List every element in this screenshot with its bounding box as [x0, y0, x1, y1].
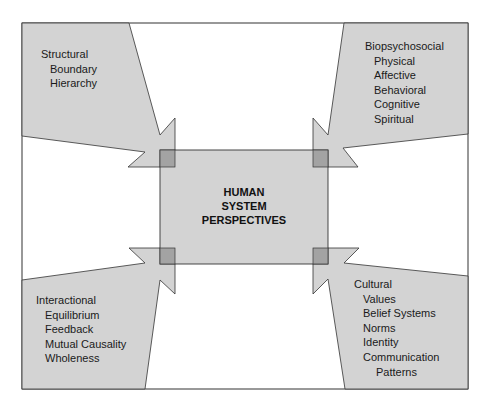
- cultural-heading: Cultural: [354, 277, 439, 292]
- structural-heading: Structural: [41, 47, 97, 62]
- biopsychosocial-item: Cognitive: [365, 97, 444, 112]
- cultural-item: Norms: [354, 321, 439, 336]
- overlap-square-bottom-left: [160, 248, 175, 264]
- interactional-item: Feedback: [36, 322, 126, 337]
- cultural-item: Identity: [354, 335, 439, 350]
- cultural-label-group: Cultural Values Belief Systems Norms Ide…: [354, 277, 439, 379]
- biopsychosocial-item: Spiritual: [365, 112, 444, 127]
- interactional-heading: Interactional: [36, 293, 126, 308]
- overlap-square-top-left: [160, 150, 175, 167]
- structural-label-group: Structural Boundary Hierarchy: [41, 47, 97, 91]
- interactional-item: Wholeness: [36, 351, 126, 366]
- structural-item: Boundary: [41, 62, 97, 77]
- biopsychosocial-item: Behavioral: [365, 83, 444, 98]
- cultural-item: Communication: [354, 350, 439, 365]
- cultural-item-continuation: Patterns: [354, 365, 439, 380]
- center-title-line: HUMAN: [160, 185, 328, 199]
- biopsychosocial-item: Affective: [365, 68, 444, 83]
- center-title-line: SYSTEM: [160, 199, 328, 213]
- interactional-label-group: Interactional Equilibrium Feedback Mutua…: [36, 293, 126, 366]
- biopsychosocial-item: Physical: [365, 54, 444, 69]
- interactional-item: Mutual Causality: [36, 337, 126, 352]
- biopsychosocial-label-group: Biopsychosocial Physical Affective Behav…: [365, 39, 444, 127]
- biopsychosocial-heading: Biopsychosocial: [365, 39, 444, 54]
- structural-item: Hierarchy: [41, 76, 97, 91]
- overlap-square-top-right: [313, 150, 328, 167]
- cultural-item: Belief Systems: [354, 306, 439, 321]
- interactional-item: Equilibrium: [36, 308, 126, 323]
- overlap-square-bottom-right: [313, 248, 328, 264]
- cultural-item: Values: [354, 292, 439, 307]
- center-title-line: PERSPECTIVES: [160, 213, 328, 227]
- center-title: HUMAN SYSTEM PERSPECTIVES: [160, 185, 328, 227]
